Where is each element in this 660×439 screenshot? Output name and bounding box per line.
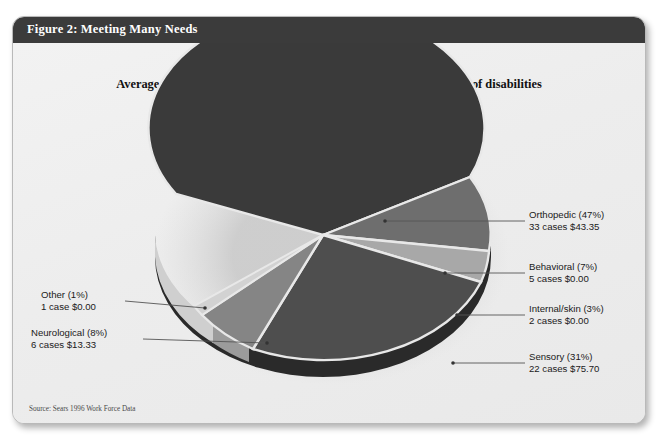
- figure-body: Average costs of accommodations for empl…: [13, 43, 645, 423]
- callout-behavioral: Behavioral (7%) 5 cases $0.00: [529, 261, 597, 284]
- figure-panel: Figure 2: Meeting Many Needs Average cos…: [12, 16, 646, 424]
- callout-neurological-detail: 6 cases $13.33: [31, 339, 107, 351]
- callout-orthopedic: Orthopedic (47%) 33 cases $43.35: [529, 209, 604, 232]
- callout-internal-skin: Internal/skin (3%) 2 cases $0.00: [529, 303, 604, 326]
- callout-sensory-name: Sensory (31%): [529, 351, 599, 363]
- callout-internal-skin-name: Internal/skin (3%): [529, 303, 604, 315]
- callout-internal-skin-detail: 2 cases $0.00: [529, 315, 604, 327]
- source-note: Source: Sears 1996 Work Force Data: [29, 405, 135, 413]
- callout-orthopedic-detail: 33 cases $43.35: [529, 221, 604, 233]
- callout-neurological-name: Neurological (8%): [31, 327, 107, 339]
- callout-sensory-detail: 22 cases $75.70: [529, 363, 599, 375]
- figure-header-bar: Figure 2: Meeting Many Needs: [13, 17, 645, 43]
- callout-other-detail: 1 case $0.00: [41, 301, 96, 313]
- callout-orthopedic-name: Orthopedic (47%): [529, 209, 604, 221]
- callout-other: Other (1%) 1 case $0.00: [41, 289, 96, 312]
- figure-header-title: Figure 2: Meeting Many Needs: [27, 22, 198, 37]
- callout-sensory: Sensory (31%) 22 cases $75.70: [529, 351, 599, 374]
- callout-other-name: Other (1%): [41, 289, 96, 301]
- pie-slices: [149, 43, 491, 360]
- callout-neurological: Neurological (8%) 6 cases $13.33: [31, 327, 107, 350]
- callout-behavioral-name: Behavioral (7%): [529, 261, 597, 273]
- callout-behavioral-detail: 5 cases $0.00: [529, 273, 597, 285]
